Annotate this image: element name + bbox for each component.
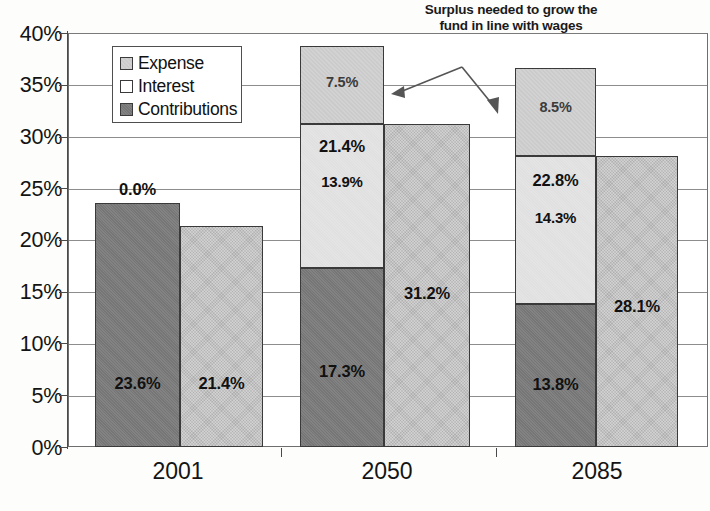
x-axis-label-2085: 2085 <box>537 458 657 485</box>
annotation-arrow-left-line <box>400 67 462 92</box>
bar-2050-total-label: 31.2% <box>385 284 469 303</box>
y-tick-5 <box>59 395 67 396</box>
bar-2085-interest-sum-label: 22.8% <box>516 171 595 190</box>
annotation-arrow-left-head-icon <box>391 86 405 98</box>
legend-label-expense: Expense <box>138 53 204 74</box>
annotation-arrow-right-head-icon <box>487 97 499 114</box>
bar-2085-contributions-label: 13.8% <box>516 375 595 394</box>
y-axis-label-5: 5% <box>0 384 62 409</box>
caption-clip: Figure 6.22 Sources of new-job-seeker-fu… <box>0 492 710 511</box>
bar-2050-total[interactable]: 31.2% <box>384 124 470 447</box>
bar-2085-total-label: 28.1% <box>597 297 677 316</box>
y-axis-label-10: 10% <box>0 332 62 357</box>
y-axis-label-20: 20% <box>0 228 62 253</box>
y-tick-40 <box>59 33 67 34</box>
y-axis-label-0: 0% <box>0 436 62 461</box>
bar-2001-total-label: 21.4% <box>181 374 262 393</box>
legend: Expense Interest Contributions <box>112 46 242 123</box>
bar-2085-expense-label: 8.5% <box>516 99 595 115</box>
legend-item-contributions[interactable]: Contributions <box>120 98 235 121</box>
bar-2085-expense[interactable]: 8.5% <box>515 68 596 156</box>
y-axis-label-25: 25% <box>0 177 62 202</box>
annotation-text: Surplus needed to grow the fund in line … <box>386 2 636 34</box>
bar-2050-contributions-label: 17.3% <box>301 362 383 381</box>
y-tick-20 <box>59 240 67 241</box>
bar-2085-interest[interactable]: 22.8% 14.3% <box>515 156 596 304</box>
legend-item-expense[interactable]: Expense <box>120 52 235 75</box>
y-axis-label-40: 40% <box>0 22 62 47</box>
legend-label-interest: Interest <box>138 76 194 97</box>
x-tick-1 <box>281 448 282 457</box>
x-axis-label-2050: 2050 <box>327 458 447 485</box>
bar-2050-interest[interactable]: 21.4% 13.9% <box>300 124 384 268</box>
annotation-arrows <box>380 40 520 125</box>
legend-item-interest[interactable]: Interest <box>120 75 235 98</box>
bar-2001-contributions-label: 23.6% <box>96 374 179 393</box>
contributions-swatch-icon <box>120 103 133 116</box>
bar-2050-interest-sum-label: 21.4% <box>301 137 383 156</box>
chart-container: 40% 35% 30% 25% 20% 15% 10% 5% 0% 23.6% … <box>0 0 710 511</box>
x-axis-label-2001: 2001 <box>118 458 238 485</box>
bar-2050-contributions[interactable]: 17.3% <box>300 268 384 447</box>
bar-2050-expense-label: 7.5% <box>301 74 383 90</box>
y-tick-0 <box>59 447 67 448</box>
bar-2001-contributions[interactable]: 23.6% <box>95 203 180 447</box>
bar-2001-total[interactable]: 21.4% <box>180 226 263 447</box>
legend-label-contributions: Contributions <box>138 99 237 120</box>
y-axis-label-30: 30% <box>0 125 62 150</box>
y-axis-label-15: 15% <box>0 280 62 305</box>
bar-2050-interest-label: 13.9% <box>301 173 383 190</box>
expense-swatch-icon <box>120 57 133 70</box>
annotation-arrow-right-line <box>462 67 492 104</box>
interest-swatch-icon <box>120 80 133 93</box>
annotation-line-1: Surplus needed to grow the <box>386 2 636 18</box>
y-tick-25 <box>59 188 67 189</box>
y-tick-10 <box>59 343 67 344</box>
bar-2050-expense[interactable]: 7.5% <box>300 46 384 124</box>
annotation-line-2: fund in line with wages <box>386 18 636 34</box>
y-tick-15 <box>59 292 67 293</box>
y-tick-35 <box>59 85 67 86</box>
y-tick-30 <box>59 137 67 138</box>
bar-2085-interest-label: 14.3% <box>516 209 595 226</box>
bar-2085-contributions[interactable]: 13.8% <box>515 304 596 447</box>
x-tick-2 <box>496 448 497 457</box>
bar-2001-above-label: 0.0% <box>95 180 180 199</box>
bar-2085-total[interactable]: 28.1% <box>596 156 678 447</box>
y-axis-label-35: 35% <box>0 73 62 98</box>
